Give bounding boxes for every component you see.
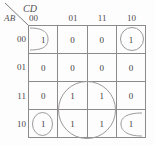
- row-header-column: 00 01 11 10: [6, 25, 27, 138]
- column-header-11: 11: [88, 12, 117, 25]
- kmap-cell-r0c3[interactable]: 1: [117, 26, 146, 54]
- row-header-01: 01: [6, 53, 27, 81]
- karnaugh-map: CD AB 00 01 11 10 00 01 11 10 1 0 0 1 0 …: [0, 0, 155, 145]
- row-header-00: 00: [6, 25, 27, 53]
- kmap-cell-r3c1[interactable]: 1: [58, 110, 87, 138]
- kmap-cell-r2c3[interactable]: 0: [117, 82, 146, 110]
- kmap-cell-r3c0[interactable]: 1: [29, 110, 58, 138]
- kmap-cell-r1c2[interactable]: 0: [88, 54, 117, 82]
- column-header-row: 00 01 11 10: [28, 12, 146, 25]
- kmap-cell-r1c0[interactable]: 0: [29, 54, 58, 82]
- row-header-10: 10: [6, 110, 27, 138]
- kmap-cell-r0c0[interactable]: 1: [29, 26, 58, 54]
- kmap-cell-r2c0[interactable]: 0: [29, 82, 58, 110]
- column-header-01: 01: [58, 12, 87, 25]
- kmap-cell-r3c2[interactable]: 1: [88, 110, 117, 138]
- column-header-10: 10: [117, 12, 146, 25]
- column-header-00: 00: [28, 12, 58, 25]
- kmap-cell-r1c1[interactable]: 0: [58, 54, 87, 82]
- kmap-grid: 1 0 0 1 0 0 0 0 0 1 1 0 1 1 1 1: [28, 25, 146, 138]
- kmap-cell-r1c3[interactable]: 0: [117, 54, 146, 82]
- kmap-cell-r0c2[interactable]: 0: [88, 26, 117, 54]
- kmap-cell-r2c2[interactable]: 1: [88, 82, 117, 110]
- row-axis-label: AB: [4, 13, 15, 23]
- kmap-cell-r0c1[interactable]: 0: [58, 26, 87, 54]
- row-header-11: 11: [6, 82, 27, 110]
- kmap-cell-r2c1[interactable]: 1: [58, 82, 87, 110]
- kmap-cell-r3c3[interactable]: 1: [117, 110, 146, 138]
